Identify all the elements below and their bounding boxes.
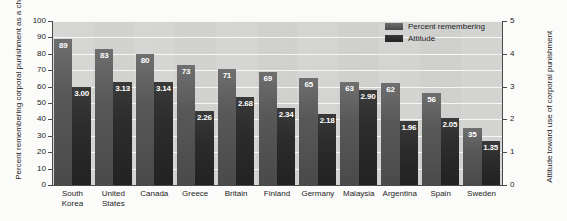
bar-group: 893.00 bbox=[52, 21, 93, 185]
bar-value-label: 1.35 bbox=[483, 143, 498, 152]
bar-value-label: 62 bbox=[386, 85, 395, 94]
bar-group: 732.26 bbox=[175, 21, 216, 185]
y-axis-left-title: Percent remembering corporal punishment … bbox=[14, 20, 24, 180]
bar-attitude: 3.13 bbox=[113, 82, 131, 185]
x-axis-category-label: Germany bbox=[297, 189, 338, 209]
bar-attitude: 1.35 bbox=[482, 141, 500, 185]
bar-percent-remembering: 80 bbox=[136, 54, 154, 185]
y-axis-right-tick bbox=[503, 87, 507, 88]
bar-value-label: 69 bbox=[264, 74, 273, 83]
y-axis-left-tick-label: 0 bbox=[42, 181, 46, 189]
y-axis-right-tick bbox=[503, 119, 507, 120]
bar-group: 692.34 bbox=[257, 21, 298, 185]
bar-attitude: 2.34 bbox=[277, 108, 295, 185]
bar-value-label: 80 bbox=[141, 56, 150, 65]
legend-item-percent-remembering: Percent remembering bbox=[385, 22, 485, 31]
bar-attitude: 2.05 bbox=[441, 118, 459, 185]
bar-percent-remembering: 56 bbox=[422, 93, 440, 185]
y-axis-left-tick-label: 40 bbox=[37, 115, 46, 123]
bar-value-label: 73 bbox=[182, 67, 191, 76]
category-label-line: States bbox=[93, 199, 134, 209]
bar-group: 712.68 bbox=[216, 21, 257, 185]
legend-swatch-icon-attitude bbox=[385, 35, 403, 42]
y-axis-right-tick-label: 4 bbox=[510, 50, 514, 58]
x-axis-category-label: Argentina bbox=[379, 189, 420, 209]
y-axis-left-tick-label: 100 bbox=[33, 17, 46, 25]
y-axis-left-tick-label: 70 bbox=[37, 66, 46, 74]
category-label-line: United bbox=[93, 189, 134, 199]
category-label-line: South bbox=[52, 189, 93, 199]
bar-attitude: 2.90 bbox=[359, 90, 377, 185]
y-axis-left-tick-label: 90 bbox=[37, 33, 46, 41]
bar-attitude: 2.26 bbox=[195, 111, 213, 185]
bar-value-label: 65 bbox=[304, 80, 313, 89]
category-label-line: Finland bbox=[257, 189, 298, 199]
y-axis-left-tick-label: 10 bbox=[37, 165, 46, 173]
x-axis-category-label: Malaysia bbox=[338, 189, 379, 209]
y-axis-right-tick-label: 3 bbox=[510, 83, 514, 91]
bar-percent-remembering: 73 bbox=[177, 65, 195, 185]
y-axis-right-title: Attitude toward use of corporal punishme… bbox=[545, 22, 555, 192]
bar-value-label: 2.90 bbox=[361, 92, 376, 101]
category-label-line: Korea bbox=[52, 199, 93, 209]
bar-attitude: 2.68 bbox=[236, 97, 254, 185]
bar-group: 803.14 bbox=[134, 21, 175, 185]
bar-attitude: 3.00 bbox=[72, 87, 90, 185]
y-axis-right-tick-label: 2 bbox=[510, 115, 514, 123]
category-label-line: Spain bbox=[420, 189, 461, 199]
y-axis-left-tick-label: 20 bbox=[37, 148, 46, 156]
bar-chart: 0102030405060708090100 012345 Percent re… bbox=[0, 0, 567, 221]
y-axis-right-tick-label: 0 bbox=[510, 181, 514, 189]
bar-value-label: 2.05 bbox=[442, 120, 457, 129]
category-label-line: Germany bbox=[297, 189, 338, 199]
bar-percent-remembering: 83 bbox=[95, 49, 113, 185]
category-label-line: Sweden bbox=[461, 189, 502, 199]
bar-value-label: 1.96 bbox=[402, 123, 417, 132]
x-axis-category-label: SouthKorea bbox=[52, 189, 93, 209]
x-axis-category-label: UnitedStates bbox=[93, 189, 134, 209]
legend-swatch-icon-percent bbox=[385, 23, 403, 30]
y-axis-left-tick-label: 50 bbox=[37, 99, 46, 107]
x-axis-category-label: Britain bbox=[216, 189, 257, 209]
bar-value-label: 89 bbox=[59, 41, 68, 50]
y-axis-right-line bbox=[502, 21, 503, 186]
legend: Percent remembering Attitude bbox=[385, 22, 485, 46]
x-axis-category-label: Sweden bbox=[461, 189, 502, 209]
category-label-line: Britain bbox=[216, 189, 257, 199]
category-label-line: Greece bbox=[175, 189, 216, 199]
bar-value-label: 63 bbox=[345, 84, 354, 93]
bar-attitude: 1.96 bbox=[400, 121, 418, 185]
bar-value-label: 3.14 bbox=[156, 84, 171, 93]
x-axis-category-label: Finland bbox=[257, 189, 298, 209]
bar-percent-remembering: 69 bbox=[259, 72, 277, 185]
y-axis-left-tick-label: 80 bbox=[37, 50, 46, 58]
x-axis-category-label: Greece bbox=[175, 189, 216, 209]
bar-percent-remembering: 62 bbox=[381, 83, 399, 185]
y-axis-right-tick-label: 1 bbox=[510, 148, 514, 156]
legend-label-attitude: Attitude bbox=[408, 34, 435, 43]
bar-value-label: 71 bbox=[223, 71, 232, 80]
bar-value-label: 2.68 bbox=[238, 99, 253, 108]
bar-attitude: 3.14 bbox=[154, 82, 172, 185]
x-axis-line bbox=[52, 185, 503, 186]
bar-group: 833.13 bbox=[93, 21, 134, 185]
bar-group: 652.18 bbox=[297, 21, 338, 185]
bar-value-label: 2.34 bbox=[279, 110, 294, 119]
bar-attitude: 2.18 bbox=[318, 114, 336, 186]
x-axis-category-label: Spain bbox=[420, 189, 461, 209]
bar-value-label: 3.13 bbox=[115, 84, 130, 93]
y-axis-left-tick bbox=[48, 185, 52, 186]
y-axis-left-tick-label: 30 bbox=[37, 132, 46, 140]
category-label-line: Argentina bbox=[379, 189, 420, 199]
bar-percent-remembering: 35 bbox=[463, 128, 481, 185]
y-axis-right-tick bbox=[503, 185, 507, 186]
bar-percent-remembering: 65 bbox=[299, 78, 317, 185]
bar-percent-remembering: 89 bbox=[54, 39, 72, 185]
category-label-line: Canada bbox=[134, 189, 175, 199]
y-axis-left-tick-label: 60 bbox=[37, 83, 46, 91]
y-axis-right-tick bbox=[503, 54, 507, 55]
legend-item-attitude: Attitude bbox=[385, 34, 485, 43]
bar-value-label: 2.18 bbox=[320, 116, 335, 125]
category-label-line: Malaysia bbox=[338, 189, 379, 199]
bar-value-label: 83 bbox=[100, 51, 109, 60]
